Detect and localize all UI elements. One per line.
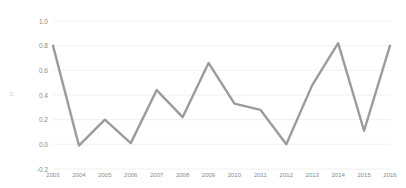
x-axis-tick-label: 2016 xyxy=(383,172,396,179)
y-axis-tick-label: 1.0 xyxy=(22,18,48,25)
x-axis-tick-label: 2015 xyxy=(357,172,370,179)
line-chart: r² 1.00.80.60.40.20.0-0.2 20032004200520… xyxy=(0,0,406,188)
x-axis-tick-label: 2014 xyxy=(331,172,344,179)
x-axis-tick-label: 2003 xyxy=(46,172,59,179)
x-axis-tick-label: 2009 xyxy=(202,172,215,179)
gridlines xyxy=(53,21,390,169)
y-axis-tick-label: 0.4 xyxy=(22,92,48,99)
plot-area xyxy=(0,0,406,188)
x-axis-tick-label: 2007 xyxy=(150,172,163,179)
y-axis-tick-label: 0.8 xyxy=(22,42,48,49)
x-axis-tick-label: 2012 xyxy=(280,172,293,179)
y-axis-tick-label: 0.2 xyxy=(22,116,48,123)
x-axis-tick-label: 2010 xyxy=(228,172,241,179)
y-axis-tick-label: 0.6 xyxy=(22,67,48,74)
data-series-line xyxy=(53,43,390,145)
x-axis-tick-label: 2004 xyxy=(72,172,85,179)
y-axis-tick-label: -0.2 xyxy=(22,166,48,173)
x-axis-tick-label: 2005 xyxy=(98,172,111,179)
x-axis-tick-label: 2006 xyxy=(124,172,137,179)
y-axis-tick-label: 0.0 xyxy=(22,141,48,148)
x-axis-tick-label: 2008 xyxy=(176,172,189,179)
x-axis-tick-label: 2013 xyxy=(306,172,319,179)
x-axis-tick-label: 2011 xyxy=(254,172,267,179)
